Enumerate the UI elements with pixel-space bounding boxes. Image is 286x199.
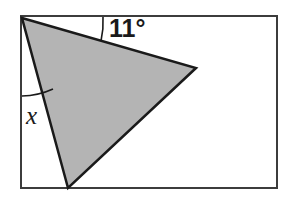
figure-canvas: 11° x [0, 0, 286, 199]
angle-label-11-degrees: 11° [109, 14, 145, 42]
geometry-figure: 11° x [0, 0, 286, 199]
angle-label-x: x [25, 102, 37, 129]
